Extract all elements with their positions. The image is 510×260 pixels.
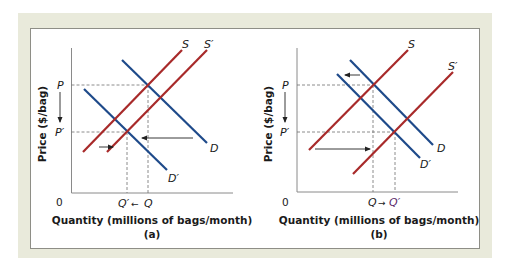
label-s-prime: S′ xyxy=(204,38,214,51)
demand-curve-d-prime xyxy=(337,74,420,158)
y-axis-title: Price ($/bag) xyxy=(262,86,274,162)
label-d-prime: D′ xyxy=(168,172,179,185)
supply-demand-figure: S S′ D D′ P P′ Q′ ← Q 0 Quantity (millio… xyxy=(0,0,510,260)
panel-b: S S′ D D′ P P′ Q → Q′ 0 Quantity (millio… xyxy=(262,38,479,240)
origin-label: 0 xyxy=(282,196,289,208)
label-s: S xyxy=(182,38,189,51)
label-d: D xyxy=(210,142,218,155)
label-p: P xyxy=(57,79,64,92)
label-p-prime: P′ xyxy=(55,126,65,139)
label-q: Q xyxy=(144,197,153,210)
label-d: D xyxy=(437,142,445,155)
label-d-prime: D′ xyxy=(420,158,431,171)
panel-a: S S′ D D′ P P′ Q′ ← Q 0 Quantity (millio… xyxy=(36,38,252,240)
supply-curve-s xyxy=(309,50,408,150)
supply-curve-s-prime xyxy=(107,50,207,152)
x-axis-title: Quantity (millions of bags/month) xyxy=(52,214,252,226)
label-p-prime: P′ xyxy=(280,126,290,139)
origin-label: 0 xyxy=(56,196,63,208)
label-q-prime: Q′ xyxy=(389,196,401,209)
demand-curve-d xyxy=(122,60,207,143)
panel-caption: (b) xyxy=(370,228,387,240)
y-axis-title: Price ($/bag) xyxy=(36,86,48,162)
label-q: Q xyxy=(368,196,377,209)
panel-caption: (a) xyxy=(144,228,161,240)
quantity-change-arrow: → xyxy=(378,198,386,208)
label-s-prime: S′ xyxy=(448,60,458,73)
quantity-change-arrow: ← xyxy=(131,199,139,209)
label-p: P xyxy=(282,79,289,92)
label-s: S xyxy=(408,38,415,51)
x-axis-title: Quantity (millions of bags/month) xyxy=(279,214,479,226)
label-q-prime: Q′ xyxy=(118,197,130,210)
demand-curve-d-prime xyxy=(84,89,167,170)
supply-curve-s-prime xyxy=(353,72,453,174)
